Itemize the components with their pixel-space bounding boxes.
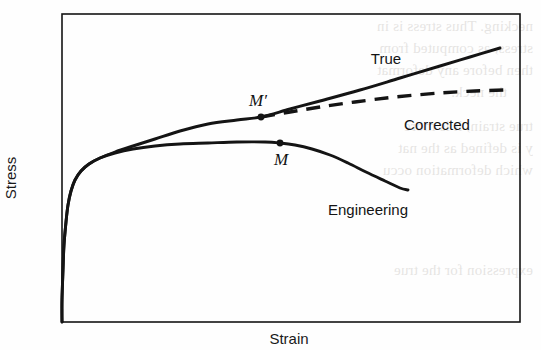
y-axis-title: Stress (2, 157, 19, 200)
curve-engineering (62, 142, 408, 322)
point-label-m: M (274, 150, 288, 170)
point-label-m-prime: M′ (249, 91, 267, 111)
stress-strain-chart (0, 0, 541, 350)
curve-true (62, 48, 500, 322)
point-marker-m-prime (258, 114, 265, 121)
plot-frame (62, 14, 520, 322)
x-axis-title: Strain (269, 330, 308, 347)
curve-label-corrected: Corrected (404, 116, 470, 133)
curve-label-engineering: Engineering (328, 201, 408, 218)
curve-label-true: True (371, 50, 401, 67)
figure-page: necking. Thus stress is instress, as com… (0, 0, 541, 350)
point-marker-m (277, 140, 284, 147)
curve-corrected (261, 90, 505, 117)
